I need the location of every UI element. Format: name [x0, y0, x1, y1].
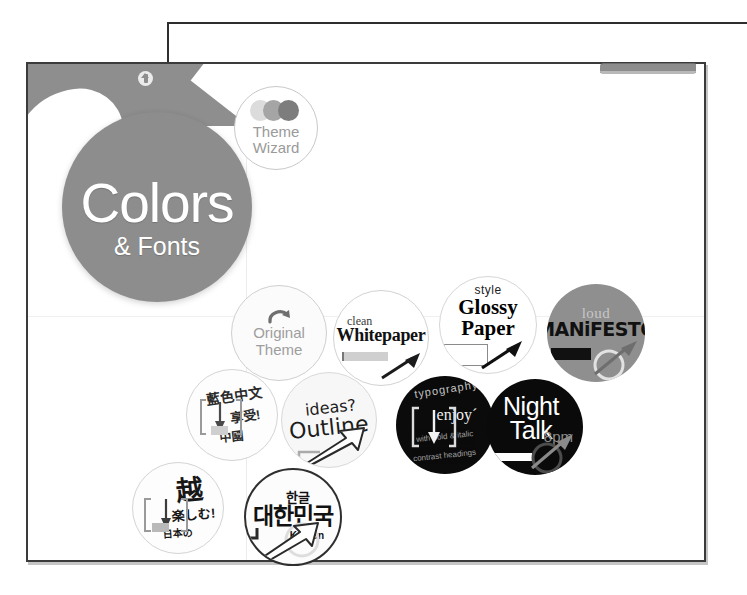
typography-arc-label: typography — [413, 379, 478, 400]
theme-wizard-bubble[interactable]: Theme Wizard — [234, 86, 318, 170]
whitepaper-theme-bubble[interactable]: clean Whitepaper — [333, 290, 429, 386]
fonts-subtitle: & Fonts — [114, 234, 200, 259]
japanese-sub-label: 日本の — [163, 527, 194, 539]
typography-enjoy-label: enjoy´ — [437, 407, 478, 423]
colors-title: Colors — [81, 177, 234, 230]
glossy-paper-theme-bubble[interactable]: style Glossy Paper — [439, 276, 537, 374]
chinese-line3: 中國 — [219, 430, 244, 444]
glossy-title-line2: Paper — [461, 318, 515, 339]
manifesto-swatch — [551, 348, 591, 360]
theme-wizard-label-line2: Wizard — [253, 140, 300, 156]
undo-arrow-icon — [266, 308, 292, 323]
outline-theme-bubble[interactable]: ideas? Outline — [281, 372, 377, 468]
korean-english-label: Korean — [290, 531, 324, 541]
chinese-line1: 藍色中文 — [205, 385, 262, 407]
night-talk-title-line1: Night — [503, 394, 559, 419]
original-theme-label-line2: Theme — [256, 342, 303, 359]
slide-frame: Colors & Fonts Theme Wizard Original The… — [26, 62, 706, 562]
chinese-theme-bubble[interactable]: 藍色中文 享受! 中國 — [186, 369, 278, 461]
typography-sub-line2: contrast headings — [413, 447, 477, 463]
chinese-line2: 享受! — [229, 408, 261, 425]
manifesto-title: MANiFESTO — [547, 320, 645, 339]
screenshot-stage: Colors & Fonts Theme Wizard Original The… — [0, 0, 747, 595]
whitepaper-swatch — [342, 352, 388, 361]
outline-line2: Outline — [288, 412, 369, 442]
korean-big-label: 대한민국 — [253, 505, 333, 528]
japanese-mid-label: 楽しむ! — [172, 506, 216, 522]
original-theme-label-line1: Original — [253, 325, 305, 342]
original-theme-bubble[interactable]: Original Theme — [231, 285, 327, 381]
japanese-theme-bubble[interactable]: 越 楽しむ! 日本の — [132, 462, 224, 554]
korean-theme-bubble[interactable]: 한글 대한민국 Korean — [244, 468, 342, 566]
colors-and-fonts-bubble[interactable]: Colors & Fonts — [62, 112, 252, 302]
night-talk-time: 8pm — [544, 428, 573, 445]
glossy-swatch — [444, 344, 488, 366]
typography-sub-line1: with bold & italic — [416, 429, 474, 445]
upload-arrow-icon — [138, 71, 153, 86]
palette-dots-icon — [250, 100, 302, 122]
theme-wizard-label-line1: Theme — [253, 124, 300, 140]
frame-tab-handle[interactable] — [600, 63, 696, 73]
manifesto-theme-bubble[interactable]: loud MANiFESTO — [547, 284, 645, 382]
manifesto-pointer-arrow-icon — [585, 338, 641, 382]
typography-theme-bubble[interactable]: typography enjoy´ with bold & italic con… — [396, 376, 494, 474]
japanese-big-char: 越 — [174, 475, 204, 505]
whitepaper-title: Whitepaper — [337, 326, 426, 344]
glossy-title-line1: Glossy — [458, 297, 518, 318]
night-talk-swatch — [492, 453, 532, 461]
night-talk-theme-bubble[interactable]: Night Talk 8pm — [487, 379, 583, 475]
